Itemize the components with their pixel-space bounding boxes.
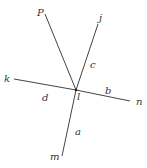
segment-label-c: c <box>90 59 96 70</box>
ray-p <box>45 14 76 90</box>
segment-label-a: a <box>75 126 81 137</box>
ray-j <box>76 24 98 90</box>
ray-k <box>14 79 76 90</box>
segment-label-d: d <box>42 92 48 103</box>
label-j: j <box>97 12 102 23</box>
ray-m <box>62 90 76 156</box>
label-m: m <box>50 151 59 162</box>
geometry-diagram: P j k n m l c b d a <box>0 0 147 168</box>
label-n: n <box>136 96 142 107</box>
segment-label-b: b <box>105 85 111 96</box>
ray-n <box>76 90 130 101</box>
label-p: P <box>36 7 44 18</box>
label-l: l <box>77 91 80 102</box>
label-k: k <box>4 73 10 84</box>
